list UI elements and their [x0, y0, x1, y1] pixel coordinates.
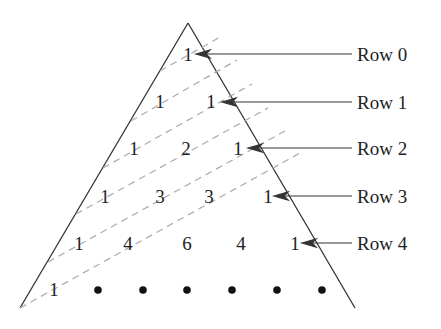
row3-value-3: 1	[263, 186, 273, 207]
pascal-triangle-diagram: 1 1 1 1 2 1 1 3 3 1 1 4 6 4 1 1	[0, 0, 441, 329]
continuation-dots	[94, 286, 326, 294]
row-label-1: Row 1	[357, 92, 407, 113]
row-labels: Row 0 Row 1 Row 2 Row 3 Row 4	[357, 44, 408, 254]
row2-value-2: 1	[233, 138, 243, 159]
row4-value-0: 1	[74, 233, 84, 254]
row-label-4: Row 4	[357, 233, 408, 254]
row3-value-2: 3	[204, 186, 214, 207]
row5-value-0: 1	[49, 279, 59, 300]
row4-value-4: 1	[290, 233, 300, 254]
row-label-0: Row 0	[357, 44, 407, 65]
shallow-diagonals	[20, 36, 300, 308]
row-label-3: Row 3	[357, 186, 407, 207]
row4-value-3: 4	[236, 233, 246, 254]
row4-value-2: 6	[182, 233, 192, 254]
triangle-right-edge	[188, 23, 355, 308]
row2-value-1: 2	[181, 138, 191, 159]
row4-value-1: 4	[123, 233, 133, 254]
row1-value-1: 1	[206, 91, 216, 112]
row1-value-0: 1	[155, 91, 165, 112]
row3-value-1: 3	[155, 186, 165, 207]
row-label-2: Row 2	[357, 138, 407, 159]
triangle-numbers: 1 1 1 1 2 1 1 3 3 1 1 4 6 4 1 1	[49, 44, 300, 300]
row0-value-0: 1	[183, 44, 193, 65]
row2-value-0: 1	[129, 138, 139, 159]
row3-value-0: 1	[100, 186, 110, 207]
row-arrows	[196, 50, 352, 247]
